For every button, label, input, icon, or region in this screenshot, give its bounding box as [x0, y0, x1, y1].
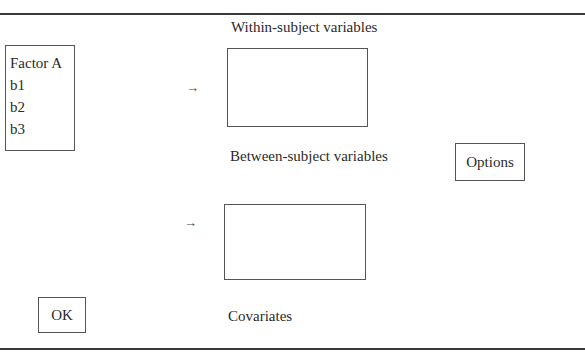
move-to-between-arrow-icon[interactable]: →	[184, 215, 197, 231]
list-item[interactable]: b3	[6, 118, 74, 140]
between-subject-list[interactable]	[224, 204, 366, 280]
within-subject-label: Within-subject variables	[231, 19, 377, 36]
bottom-divider	[0, 348, 585, 350]
between-subject-label: Between-subject variables	[230, 148, 388, 165]
options-button[interactable]: Options	[455, 143, 525, 181]
source-variable-list[interactable]: Factor A b1 b2 b3	[5, 45, 75, 151]
covariates-label: Covariates	[228, 308, 292, 325]
ok-button[interactable]: OK	[38, 297, 86, 333]
top-divider	[0, 13, 585, 15]
within-subject-list[interactable]	[227, 48, 368, 127]
list-item[interactable]: b2	[6, 96, 74, 118]
move-to-within-arrow-icon[interactable]: →	[186, 80, 199, 96]
list-item[interactable]: Factor A	[6, 52, 74, 74]
list-item[interactable]: b1	[6, 74, 74, 96]
